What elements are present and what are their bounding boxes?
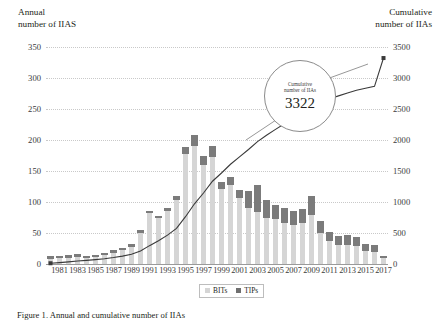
x-tick-2001: 2001 <box>231 266 248 276</box>
legend-label-tips: TIPs <box>244 287 258 295</box>
legend-swatch-bits <box>205 288 210 293</box>
y-tick-left-100: 100 <box>28 198 41 207</box>
x-tick-1997: 1997 <box>195 266 212 276</box>
y-tick-left-150: 150 <box>28 167 41 176</box>
plot-area: 050100150200250300350 050010001500200025… <box>46 47 388 264</box>
x-tick-1993: 1993 <box>159 266 176 276</box>
cumulative-line <box>46 47 388 264</box>
left-axis-title: Annual number of IIAS <box>18 7 76 30</box>
legend-label-bits: BITs <box>213 287 227 295</box>
y-tick-right-2500: 2500 <box>393 105 410 114</box>
y-tick-right-500: 500 <box>393 229 406 238</box>
x-tick-1981: 1981 <box>51 266 68 276</box>
x-tick-1999: 1999 <box>213 266 230 276</box>
x-tick-2011: 2011 <box>321 266 337 276</box>
x-tick-1989: 1989 <box>123 266 140 276</box>
x-tick-1995: 1995 <box>177 266 194 276</box>
cumulative-marker <box>49 261 53 265</box>
y-tick-left-300: 300 <box>28 74 41 83</box>
x-tick-1991: 1991 <box>141 266 158 276</box>
x-tick-2007: 2007 <box>285 266 302 276</box>
y-tick-left-350: 350 <box>28 43 41 52</box>
axis-baseline <box>46 264 388 265</box>
x-tick-2009: 2009 <box>303 266 320 276</box>
y-tick-left-50: 50 <box>32 229 41 238</box>
callout-label: Cumulative number of IIAs <box>284 81 316 94</box>
x-tick-2005: 2005 <box>267 266 284 276</box>
y-tick-right-1000: 1000 <box>393 198 410 207</box>
y-tick-right-3000: 3000 <box>393 74 410 83</box>
y-tick-right-1500: 1500 <box>393 167 410 176</box>
callout-circle: Cumulative number of IIAs 3322 <box>264 60 336 132</box>
x-tick-2017: 2017 <box>375 266 392 276</box>
y-tick-left-0: 0 <box>37 260 41 269</box>
figure-caption: Figure 1. Annual and cumulative number o… <box>17 310 427 321</box>
x-tick-2003: 2003 <box>249 266 266 276</box>
x-tick-1985: 1985 <box>87 266 104 276</box>
chart-legend: BITs TIPs <box>199 284 264 298</box>
x-tick-1987: 1987 <box>105 266 122 276</box>
cumulative-marker <box>382 56 386 60</box>
x-tick-2015: 2015 <box>357 266 374 276</box>
y-tick-right-3500: 3500 <box>393 43 410 52</box>
y-tick-left-200: 200 <box>28 136 41 145</box>
x-axis-ticks: 1981198319851987198919911993199519971999… <box>46 266 388 282</box>
right-axis-title: Cumulative number of IIAs <box>375 7 432 30</box>
legend-item-tips[interactable]: TIPs <box>236 287 258 295</box>
legend-item-bits[interactable]: BITs <box>205 287 227 295</box>
x-tick-2013: 2013 <box>339 266 356 276</box>
y-tick-left-250: 250 <box>28 105 41 114</box>
y-tick-right-0: 0 <box>393 260 397 269</box>
legend-swatch-tips <box>236 288 241 293</box>
callout-annotation: Cumulative number of IIAs 3322 <box>264 60 336 132</box>
callout-value: 3322 <box>285 95 315 111</box>
x-tick-1983: 1983 <box>69 266 86 276</box>
y-tick-right-2000: 2000 <box>393 136 410 145</box>
